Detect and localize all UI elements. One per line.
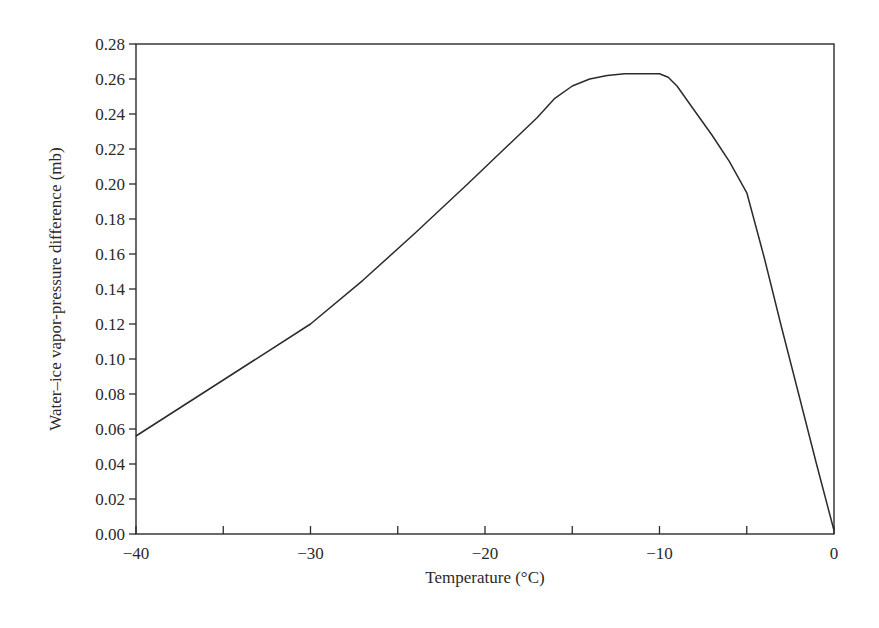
x-tick-label: −30 xyxy=(297,544,324,563)
plot-frame xyxy=(136,44,834,534)
y-tick-label: 0.12 xyxy=(95,315,125,334)
y-axis-ticks: 0.000.020.040.060.080.100.120.140.160.18… xyxy=(95,35,136,544)
x-tick-label: −10 xyxy=(646,544,673,563)
y-tick-label: 0.00 xyxy=(95,525,125,544)
y-tick-label: 0.24 xyxy=(95,105,125,124)
y-tick-label: 0.02 xyxy=(95,490,125,509)
y-tick-label: 0.16 xyxy=(95,245,125,264)
line-chart: 0.000.020.040.060.080.100.120.140.160.18… xyxy=(0,0,879,628)
y-tick-label: 0.06 xyxy=(95,420,125,439)
y-tick-label: 0.10 xyxy=(95,350,125,369)
y-tick-label: 0.08 xyxy=(95,385,125,404)
y-tick-label: 0.26 xyxy=(95,70,125,89)
x-axis-title: Temperature (°C) xyxy=(425,568,544,587)
x-tick-label: −20 xyxy=(472,544,499,563)
y-tick-label: 0.22 xyxy=(95,140,125,159)
y-axis-title: Water–ice vapor-pressure difference (mb) xyxy=(46,147,65,431)
data-line xyxy=(136,74,834,531)
y-tick-label: 0.04 xyxy=(95,455,125,474)
x-axis-ticks: −40−30−20−100 xyxy=(123,526,839,563)
x-tick-label: 0 xyxy=(830,544,839,563)
y-tick-label: 0.20 xyxy=(95,175,125,194)
y-tick-label: 0.14 xyxy=(95,280,125,299)
x-tick-label: −40 xyxy=(123,544,150,563)
y-tick-label: 0.18 xyxy=(95,210,125,229)
y-tick-label: 0.28 xyxy=(95,35,125,54)
